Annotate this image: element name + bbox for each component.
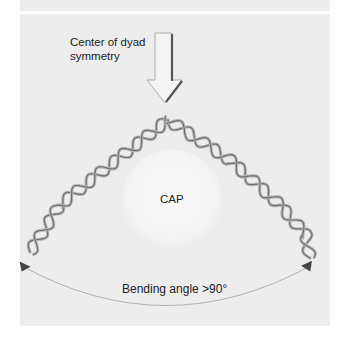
cap-label: CAP xyxy=(160,192,184,206)
dyad-symmetry-label: Center of dyad symmetry xyxy=(70,35,160,63)
bending-angle-label: Bending angle >90° xyxy=(122,282,227,296)
